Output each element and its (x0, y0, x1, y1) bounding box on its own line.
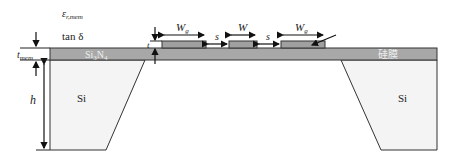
substrate-right (341, 60, 437, 150)
membrane-label-right: 硅膜 (378, 48, 398, 60)
ground-width-left-label: Wg (176, 21, 189, 35)
substrate-left-label: Si (77, 92, 86, 104)
cpw-membrane-diagram: εr,mem tan δ tmem h t Si3N4 硅膜 Si Si Wg … (0, 0, 452, 163)
epsilon-label: εr,mem (62, 8, 83, 21)
signal-strip (229, 41, 257, 48)
gap-right-label: s (266, 31, 270, 42)
substrate-left (50, 60, 145, 150)
ground-width-right-label: Wg (295, 21, 308, 35)
ground-strip-left (162, 41, 206, 48)
h-label: h (30, 93, 36, 107)
signal-width-label: W (238, 21, 248, 33)
gap-left-label: s (215, 31, 219, 42)
substrate-right-label: Si (398, 92, 407, 104)
tan-delta-label: tan δ (62, 30, 83, 42)
t-mem-label: tmem (17, 49, 33, 62)
